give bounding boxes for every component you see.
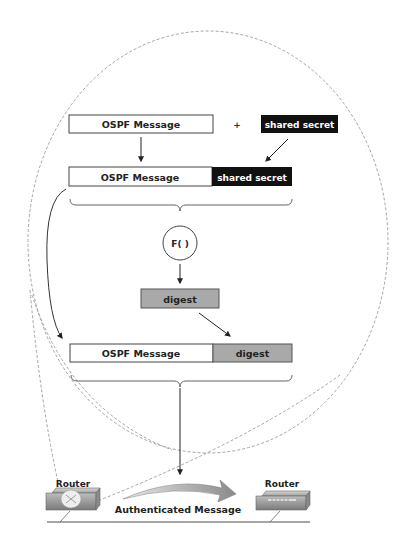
brace-step3 (71, 375, 292, 387)
plus-sign: + (233, 120, 241, 130)
arrow-secret-diagonal (266, 139, 288, 161)
arrow-digest-diagonal (199, 313, 230, 336)
shared-secret-label-2: shared secret (217, 173, 287, 183)
projection-line-right (32, 295, 172, 450)
ospf-message-label-1: OSPF Message (102, 119, 181, 130)
zoom-ellipse (28, 31, 388, 453)
diagram-canvas: OSPF Message + shared secret OSPF Messag… (0, 0, 396, 539)
left-router-label: Router (56, 479, 91, 489)
authenticated-message-label: Authenticated Message (115, 504, 241, 515)
right-router-link (270, 511, 280, 522)
left-router-icon[interactable] (46, 488, 100, 510)
projection-line-lower (100, 375, 340, 500)
shared-secret-label-1: shared secret (265, 120, 335, 130)
digest-label-appended: digest (236, 348, 270, 359)
brace-step2 (70, 199, 292, 211)
ospf-message-label-2: OSPF Message (101, 172, 180, 183)
authenticated-transfer-arrow (123, 480, 236, 502)
ospf-message-label-3: OSPF Message (102, 348, 181, 359)
left-router-link (60, 511, 70, 522)
hash-function-label: F( ) (171, 239, 189, 249)
arrow-message-bypass (47, 189, 66, 338)
digest-label: digest (163, 294, 197, 305)
right-router-label: Router (265, 479, 300, 489)
right-router-icon[interactable] (256, 491, 310, 510)
